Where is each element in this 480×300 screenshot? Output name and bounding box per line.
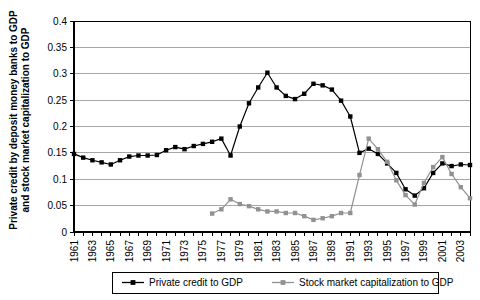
private-credit-series-marker-1977 [219,136,223,140]
y-tick-label-2: 0.1 [53,174,67,185]
private-credit-series-marker-1976 [210,140,214,144]
private-credit-series-marker-1963 [90,158,94,162]
stock-market-series-marker-1980 [247,204,251,208]
stock-market-series-marker-1976 [210,211,214,215]
private-credit-series-marker-1964 [99,160,103,164]
x-tick-label-1969: 1969 [142,240,153,263]
stock-market-series-marker-1982 [265,209,269,213]
stock-market-series-marker-1996 [394,178,398,182]
stock-market-series-marker-1992 [357,173,361,177]
x-tick-label-1977: 1977 [216,240,227,263]
private-credit-series-marker-1986 [302,92,306,96]
private-credit-series-marker-2000 [431,171,435,175]
stock-market-series-marker-2002 [449,172,453,176]
x-tick-label-1985: 1985 [290,240,301,263]
private-credit-series-marker-1967 [127,154,131,158]
private-credit-series-marker-1979 [238,124,242,128]
private-credit-series-marker-1992 [357,151,361,155]
stock-market-series-marker-2004 [468,196,472,200]
x-tick-label-1967: 1967 [124,240,135,263]
stock-market-series-marker-2001 [440,155,444,159]
private-credit-series-marker-1989 [330,87,334,91]
stock-market-series-marker-1995 [385,160,389,164]
private-credit-series-marker-1974 [192,144,196,148]
stock-market-series-marker-1998 [413,202,417,206]
legend-marker-0 [131,280,136,285]
private-credit-series-marker-1987 [311,82,315,86]
y-tick-label-1: 0.05 [48,200,68,211]
private-credit-series-marker-1988 [320,83,324,87]
stock-market-series-marker-1997 [403,193,407,197]
stock-market-series-marker-1983 [274,209,278,213]
private-credit-series-marker-1985 [293,97,297,101]
private-credit-series-marker-2002 [449,164,453,168]
private-credit-series-marker-1991 [348,114,352,118]
stock-market-series-marker-1977 [219,207,223,211]
stock-market-series-marker-1986 [302,214,306,218]
private-credit-series-marker-1962 [81,155,85,159]
legend-marker-1 [281,280,286,285]
y-tick-label-4: 0.2 [53,121,67,132]
x-tick-label-1961: 1961 [69,240,80,263]
x-tick-label-1989: 1989 [326,240,337,263]
x-tick-label-1997: 1997 [400,240,411,263]
stock-market-series-marker-2000 [431,165,435,169]
private-credit-series-marker-1984 [284,94,288,98]
x-tick-label-1963: 1963 [87,240,98,263]
stock-market-series-marker-1979 [238,202,242,206]
private-credit-series-marker-1994 [376,152,380,156]
private-credit-series-marker-2003 [459,162,463,166]
private-credit-series-marker-1981 [256,85,260,89]
stock-market-series-marker-1993 [367,136,371,140]
x-tick-label-1965: 1965 [105,240,116,263]
private-credit-series-marker-1965 [109,162,113,166]
private-credit-series-marker-1996 [394,171,398,175]
y-tick-label-7: 0.35 [48,42,68,53]
private-credit-series-marker-1973 [182,147,186,151]
legend-label-0[interactable]: Private credit to GDP [149,277,243,288]
stock-market-series-marker-1981 [256,207,260,211]
stock-market-series-marker-1990 [339,211,343,215]
private-credit-series-marker-1978 [228,153,232,157]
x-tick-label-1981: 1981 [253,240,264,263]
chart-plot-area: 00.050.10.150.20.250.30.350.419611963196… [0,0,480,300]
stock-market-series-marker-1985 [293,211,297,215]
y-tick-label-3: 0.15 [48,147,68,158]
private-credit-series-marker-1970 [155,153,159,157]
x-tick-label-2003: 2003 [455,240,466,263]
stock-market-series-marker-1984 [284,211,288,215]
private-credit-series-marker-1972 [173,145,177,149]
legend-label-1[interactable]: Stock market capitalization to GDP [299,277,454,288]
private-credit-series-marker-2004 [468,163,472,167]
private-credit-series-marker-1983 [274,85,278,89]
x-tick-label-1991: 1991 [345,240,356,263]
private-credit-series-marker-1961 [72,152,76,156]
y-tick-label-8: 0.4 [53,16,67,27]
x-tick-label-1987: 1987 [308,240,319,263]
private-credit-series-marker-1971 [164,148,168,152]
private-credit-series-marker-1975 [201,142,205,146]
private-credit-series-marker-1969 [145,153,149,157]
private-credit-series-marker-1990 [339,98,343,102]
stock-market-series-marker-1988 [320,216,324,220]
x-tick-label-2001: 2001 [437,240,448,263]
x-tick-label-1999: 1999 [418,240,429,263]
x-tick-label-1983: 1983 [271,240,282,263]
stock-market-series-marker-2003 [459,185,463,189]
x-tick-label-1993: 1993 [363,240,374,263]
y-tick-label-5: 0.25 [48,95,68,106]
x-tick-label-1979: 1979 [234,240,245,263]
y-tick-label-0: 0 [61,227,67,238]
stock-market-series-marker-1991 [348,211,352,215]
private-credit-series-marker-1980 [247,101,251,105]
x-tick-label-1971: 1971 [161,240,172,263]
x-tick-label-1973: 1973 [179,240,190,263]
stock-market-series-marker-1989 [330,214,334,218]
x-tick-label-1975: 1975 [197,240,208,263]
x-tick-label-1995: 1995 [382,240,393,263]
stock-market-series-marker-1978 [228,197,232,201]
private-credit-series-marker-1966 [118,158,122,162]
stock-market-series-marker-1999 [422,181,426,185]
private-credit-series-marker-2001 [440,161,444,165]
chart-figure: Private credit by deposit money banks to… [0,0,480,300]
